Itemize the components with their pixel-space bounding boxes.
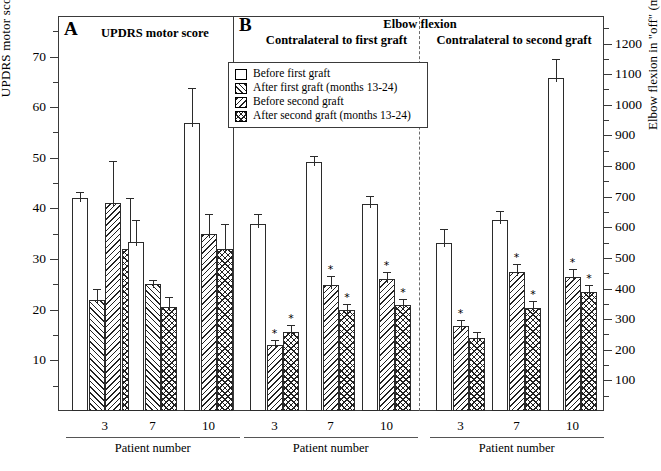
bar [283,332,299,411]
error-bar [192,88,193,127]
error-bar [444,229,445,247]
bar [184,123,200,411]
y-tick-right-600 [604,227,612,228]
error-bar [225,224,226,253]
bar [565,277,581,411]
y-tick-left-minor [53,234,58,235]
y-tick-label-left-20: 20 [0,303,46,317]
error-bar-cap [132,220,140,221]
y-tick-right-1100 [604,74,612,75]
error-bar-cap [76,192,84,193]
y-tick-right-minor [604,212,609,213]
error-bar [331,276,332,289]
bar [161,307,177,411]
error-bar-cap [254,214,262,215]
error-bar-cap [93,289,101,290]
y-tick-label-right-200: 200 [615,343,635,357]
error-bar-cap [188,88,196,89]
error-bar [258,214,259,229]
y-tick-left-minor [53,132,58,133]
patient-number-caption: Patient number [430,442,604,455]
error-bar [370,196,371,209]
x-tick-label-patient: 10 [372,419,402,432]
error-bar [153,280,154,288]
patient-group-rule [244,437,418,438]
y-tick-label-left-70: 70 [0,50,46,64]
y-tick-right-minor [604,89,609,90]
bar [145,284,161,411]
error-bar [314,156,315,167]
error-bar [461,320,462,330]
bar [306,162,322,411]
error-bar-cap [205,214,213,215]
significance-asterisk: * [382,260,392,271]
bar [581,292,597,411]
y-tick-label-right-300: 300 [615,312,635,326]
bar [105,203,121,411]
bar [469,338,485,411]
y-tick-label-right-400: 400 [615,282,635,296]
y-tick-label-left-50: 50 [0,151,46,165]
significance-asterisk: * [326,264,336,275]
legend-swatch-plain [235,69,247,80]
significance-asterisk: * [512,252,522,263]
y-tick-label-right-700: 700 [615,190,635,204]
y-tick-right-300 [604,319,612,320]
y-tick-right-900 [604,135,612,136]
y-tick-label-left-10: 10 [0,353,46,367]
legend-item: After second graft (months 13-24) [235,109,420,123]
error-bar [291,325,292,336]
error-bar-cap [585,285,593,286]
y-tick-right-1000 [604,105,612,106]
y-tick-label-right-500: 500 [615,251,635,265]
y-tick-right-800 [604,166,612,167]
bar [436,243,452,411]
y-tick-right-minor [604,28,609,29]
error-bar-cap [496,211,504,212]
y-tick-left-20 [50,310,58,311]
legend-swatch-hatch-right [235,83,247,94]
x-tick-label-patient: 7 [316,419,346,432]
panel-b-sub-left: Contralateral to first graft [254,33,419,48]
y-tick-right-minor [604,151,609,152]
y-tick-left-minor [53,183,58,184]
panel-b-title: Elbow flexion [300,17,540,32]
bar [89,300,105,411]
significance-asterisk: * [342,292,352,303]
error-bar [533,301,534,312]
bar [128,242,144,411]
y-tick-right-100 [604,380,612,381]
y-tick-left-60 [50,107,58,108]
y-tick-left-30 [50,259,58,260]
patient-group-rule [430,437,604,438]
error-bar [136,220,137,247]
y-tick-left-50 [50,158,58,159]
y-tick-label-right-1100: 1100 [615,67,642,81]
y-tick-right-700 [604,197,612,198]
y-tick-left-minor [53,335,58,336]
panel-b-sub-right: Contralateral to second graft [424,33,604,48]
bar [323,285,339,411]
error-bar-cap [399,299,407,300]
bar [201,234,217,411]
error-bar [403,299,404,309]
error-bar [573,269,574,281]
error-bar-cap [383,272,391,273]
bar [72,198,88,411]
bar [217,249,233,411]
panel-letter-a: A [64,18,78,40]
error-bar [97,289,98,303]
error-bar [113,161,114,207]
legend-label: Before first graft [253,68,330,80]
bar [250,224,266,411]
bar [492,220,508,411]
y-axis-right-title: Elbow flexion in "off" (ms) [645,0,661,130]
error-bar [209,214,210,238]
panel-a-title: UPDRS motor score [80,26,230,41]
y-tick-right-minor [604,59,609,60]
y-tick-left-minor [53,31,58,32]
x-tick-label-patient: 7 [502,419,532,432]
error-bar-cap [529,301,537,302]
error-bar-cap [457,320,465,321]
bar [509,272,525,411]
